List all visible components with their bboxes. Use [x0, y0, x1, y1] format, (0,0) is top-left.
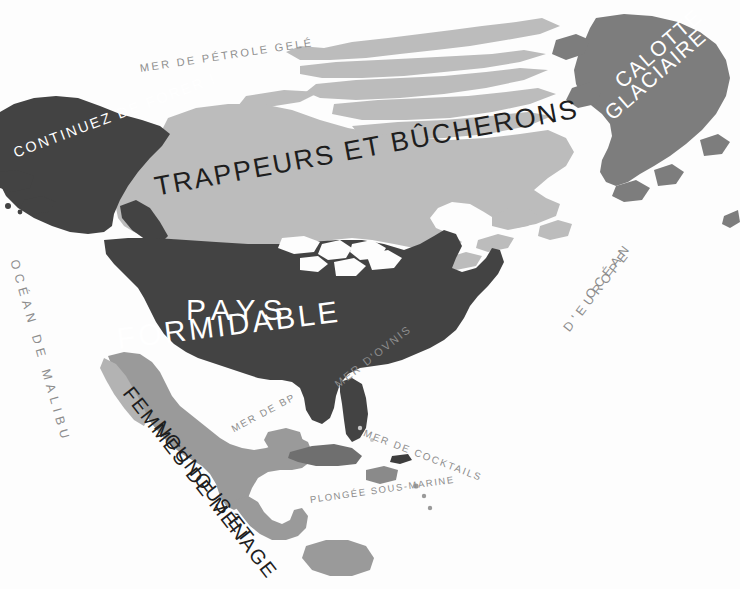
map-canvas: MER DE PÉTROLE GELÉ CONTINUEZ DE FORER !…: [0, 0, 740, 589]
map-landmasses: [0, 0, 740, 589]
